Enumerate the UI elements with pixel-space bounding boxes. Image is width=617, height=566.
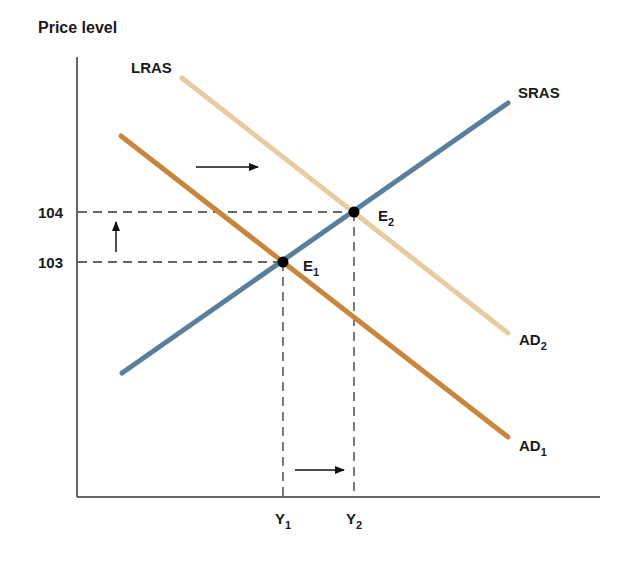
equilibrium-e1	[278, 257, 289, 268]
ad1-label: AD1	[519, 437, 547, 458]
ad2-label: AD2	[519, 331, 547, 352]
tick-y1: Y1	[275, 510, 291, 531]
guide-lines	[78, 212, 354, 497]
ad-as-diagram: Price level LRAS SRAS AD2 AD1 E1 E2 104 …	[0, 0, 617, 566]
e2-label: E2	[378, 207, 394, 228]
e1-label: E1	[303, 257, 319, 278]
tick-104: 104	[38, 204, 64, 221]
tick-103: 103	[38, 254, 63, 271]
y-axis-label: Price level	[38, 19, 117, 36]
sras-label: SRAS	[518, 84, 560, 101]
sras-curve	[122, 103, 508, 373]
lras-label: LRAS	[131, 59, 172, 76]
equilibrium-e2	[349, 207, 360, 218]
tick-y2: Y2	[346, 510, 362, 531]
